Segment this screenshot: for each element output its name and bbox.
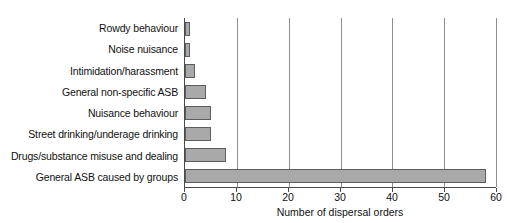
bar-row: [185, 39, 496, 60]
category-label: General non-specific ASB: [0, 82, 182, 103]
bar-row: [185, 18, 496, 39]
bar: [185, 43, 190, 57]
bar: [185, 85, 206, 99]
bar: [185, 64, 195, 78]
x-tick-label: 0: [181, 191, 187, 203]
bar-row: [185, 166, 496, 187]
x-tick-label: 20: [282, 191, 294, 203]
x-tick-label: 10: [230, 191, 242, 203]
plot-area: [184, 18, 496, 188]
bar: [185, 148, 226, 162]
category-label: Intimidation/harassment: [0, 61, 182, 82]
category-axis: Rowdy behaviour Noise nuisance Intimidat…: [0, 18, 182, 188]
bars-layer: [185, 18, 496, 187]
x-axis-title: Number of dispersal orders: [184, 206, 496, 218]
bar-row: [185, 60, 496, 81]
bar-chart: Rowdy behaviour Noise nuisance Intimidat…: [0, 0, 507, 223]
bar-row: [185, 103, 496, 124]
clipped-heading-remnant: [70, 0, 390, 1]
bar: [185, 127, 211, 141]
x-tick-label: 60: [490, 191, 502, 203]
bar: [185, 106, 211, 120]
category-label: Noise nuisance: [0, 39, 182, 60]
x-tick-label: 40: [386, 191, 398, 203]
bar-row: [185, 145, 496, 166]
gridline: [496, 18, 497, 187]
category-label: General ASB caused by groups: [0, 167, 182, 188]
category-label: Rowdy behaviour: [0, 18, 182, 39]
category-label: Nuisance behaviour: [0, 103, 182, 124]
x-axis-tick-labels: 0102030405060: [184, 191, 496, 205]
category-label: Street drinking/underage drinking: [0, 124, 182, 145]
x-tick-label: 30: [334, 191, 346, 203]
bar: [185, 22, 190, 36]
bar: [185, 169, 486, 183]
x-tick-label: 50: [438, 191, 450, 203]
bar-row: [185, 81, 496, 102]
category-label: Drugs/substance misuse and dealing: [0, 146, 182, 167]
bar-row: [185, 124, 496, 145]
